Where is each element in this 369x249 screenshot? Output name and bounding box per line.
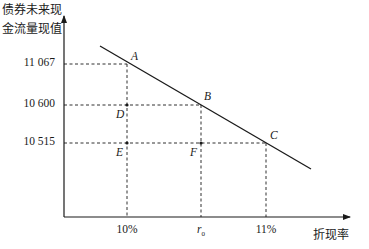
point-b-label: B xyxy=(204,90,211,102)
guide-lines xyxy=(64,64,266,217)
y-tick-10600: 10 600 xyxy=(23,97,55,109)
y-tick-11067: 11 067 xyxy=(24,56,55,68)
x-tick-11pct: 11% xyxy=(256,223,277,235)
x-tick-r0: r0 xyxy=(197,223,205,238)
point-c-label: C xyxy=(270,129,278,141)
y-tick-10515: 10 515 xyxy=(23,135,55,147)
point-d-label: D xyxy=(116,108,124,120)
x-tick-r0-sub: 0 xyxy=(201,230,205,238)
pv-line xyxy=(100,46,311,169)
point-f-marker xyxy=(199,141,202,144)
y-axis-label: 债券未来现 金流量现值 xyxy=(2,1,62,39)
point-d-marker xyxy=(125,103,128,106)
point-e-label: E xyxy=(116,146,123,158)
x-axis-label: 折现率 xyxy=(313,225,349,242)
point-a-label: A xyxy=(131,50,138,62)
point-f-label: F xyxy=(190,146,197,158)
point-e-marker xyxy=(125,141,128,144)
x-tick-10pct: 10% xyxy=(116,223,137,235)
y-axis-label-line1: 债券未来现 xyxy=(2,1,62,20)
y-axis-label-line2: 金流量现值 xyxy=(2,20,62,39)
